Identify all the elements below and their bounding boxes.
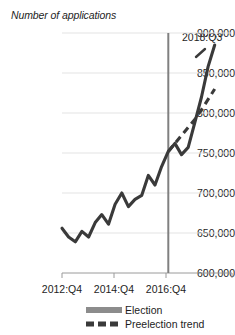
chart-legend: Election Preelection trend [0,303,235,331]
chart-container: Number of applications 900,000 850,000 8… [0,0,235,335]
legend-label-election: Election [125,304,162,316]
annotation-pointer [196,49,205,57]
legend-swatch-dashed-icon [86,317,122,331]
legend-item-election: Election [0,303,235,317]
gridlines [62,33,232,233]
x-axis-line [62,273,232,278]
legend-swatch-solid-icon [86,303,122,317]
legend-label-preelection-trend: Preelection trend [125,318,204,330]
plot-area [0,0,235,335]
series-line-election [62,45,215,242]
legend-item-preelection-trend: Preelection trend [0,317,235,331]
